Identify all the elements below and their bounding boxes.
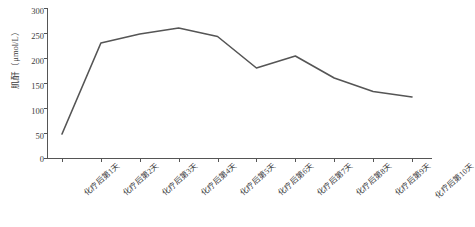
x-tick-label: 化疗后第8天 bbox=[356, 162, 394, 197]
x-tick-label: 化疗后第10天 bbox=[434, 162, 475, 200]
x-tick-label: 化疗后第9天 bbox=[394, 162, 432, 197]
x-tick-label: 化疗后第2天 bbox=[122, 162, 160, 197]
x-tick-label: 化疗后第7天 bbox=[317, 162, 355, 197]
x-tick-label: 化疗后第6天 bbox=[278, 162, 316, 197]
x-tick-label: 化疗后第4天 bbox=[200, 162, 238, 197]
x-tick-label: 化疗后第3天 bbox=[161, 162, 199, 197]
x-tick-label: 化疗后第1天 bbox=[83, 162, 121, 197]
x-tick-label: 化疗后第5天 bbox=[239, 162, 277, 197]
